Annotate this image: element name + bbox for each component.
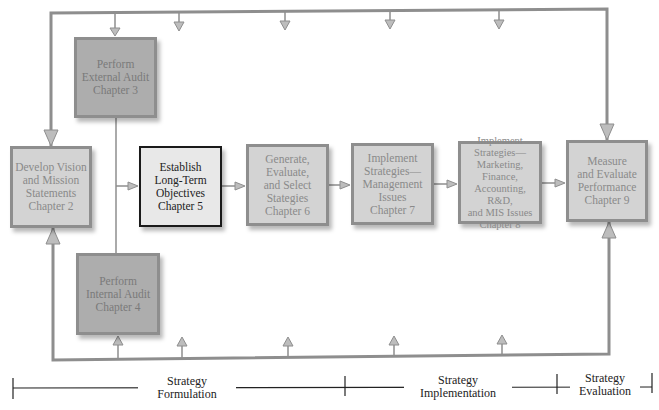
box-internal-audit: Perform Internal Audit Chapter 4: [76, 253, 160, 335]
box-establish-objectives: Establish Long-Term Objectives Chapter 5: [139, 146, 222, 227]
phase-evaluation: Strategy Evaluation: [570, 372, 640, 398]
box-label: Perform Internal Audit Chapter 4: [86, 275, 150, 314]
box-label: Generate, Evaluate, and Select Stategies…: [264, 153, 312, 218]
box-implement-marketing: Implement Strategies— Marketing, Finance…: [458, 141, 542, 224]
box-external-audit: Perform External Audit Chapter 3: [74, 37, 157, 118]
phase-formulation: Strategy Formulation: [138, 375, 236, 401]
phase-implementation: Strategy Implementation: [404, 374, 512, 400]
arrow-down-measure: [600, 124, 614, 140]
box-label: Implement Strategies— Marketing, Finance…: [461, 135, 539, 231]
box-label: Develop Vision and Mission Statements Ch…: [15, 161, 87, 213]
box-label: Perform External Audit Chapter 3: [82, 58, 149, 97]
arrow-down-vision: [44, 130, 58, 146]
box-measure-evaluate: Measure and Evaluate Performance Chapter…: [566, 140, 648, 222]
arrow-up-vision: [46, 228, 60, 244]
box-label: Measure and Evaluate Performance Chapter…: [577, 155, 637, 207]
box-implement-management: Implement Strategies— Management Issues …: [351, 143, 434, 225]
phase-timeline: [13, 373, 652, 399]
arrow-up-measure: [602, 222, 616, 238]
box-label: Implement Strategies— Management Issues …: [362, 152, 422, 217]
box-develop-vision: Develop Vision and Mission Statements Ch…: [10, 146, 92, 228]
box-label: Establish Long-Term Objectives Chapter 5: [154, 161, 206, 213]
box-generate-strategies: Generate, Evaluate, and Select Stategies…: [246, 144, 329, 226]
